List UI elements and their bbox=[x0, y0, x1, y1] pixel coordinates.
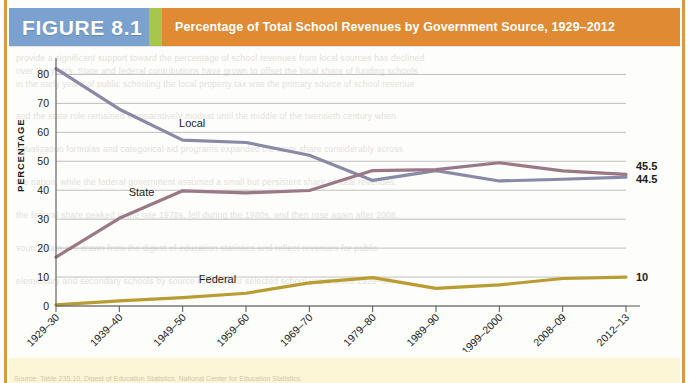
x-tick-labels-group: 1929–301939–401949–501959–601969–701979–… bbox=[24, 311, 632, 352]
y-tick-label: 30 bbox=[37, 213, 49, 225]
y-tick-label: 10 bbox=[37, 271, 49, 283]
series-line-federal bbox=[56, 277, 626, 305]
y-tick-label: 60 bbox=[37, 126, 49, 138]
page-rule-right bbox=[682, 0, 685, 383]
y-tick-label: 20 bbox=[37, 242, 49, 254]
y-tick-labels-group: 01020304050607080 bbox=[37, 68, 49, 312]
series-line-state bbox=[56, 163, 626, 257]
figure-number-badge: FIGURE 8.1 bbox=[9, 8, 149, 46]
chart-container: PERCENTAGE SCHOOL YEAR 01020304050607080… bbox=[9, 52, 680, 352]
x-tick-label: 1929–30 bbox=[24, 311, 62, 349]
x-tick-label: 1939–40 bbox=[87, 311, 125, 349]
figure-title: Percentage of Total School Revenues by G… bbox=[162, 8, 680, 46]
line-chart-plot: 01020304050607080 1929–301939–401949–501… bbox=[9, 52, 680, 352]
end-label-local: 44.5 bbox=[636, 173, 657, 185]
series-end-labels-group: 44.545.510 bbox=[636, 160, 657, 283]
end-label-state: 45.5 bbox=[636, 160, 657, 172]
y-tick-label: 80 bbox=[37, 68, 49, 80]
y-tick-label: 0 bbox=[43, 300, 49, 312]
x-tick-label: 2008–09 bbox=[531, 311, 569, 349]
x-tick-label: 1979–80 bbox=[341, 311, 379, 349]
series-label-federal: Federal bbox=[199, 273, 236, 285]
y-tick-label: 40 bbox=[37, 184, 49, 196]
series-label-local: Local bbox=[179, 117, 205, 129]
banner-divider bbox=[149, 8, 162, 46]
series-line-local bbox=[56, 69, 626, 181]
figure-number-label: FIGURE 8.1 bbox=[22, 17, 142, 38]
y-tick-label: 70 bbox=[37, 97, 49, 109]
page-rule-left bbox=[4, 0, 7, 383]
x-tick-marks-group bbox=[56, 306, 626, 312]
x-tick-label: 1969–70 bbox=[277, 311, 315, 349]
x-tick-label: 1999–2000 bbox=[459, 311, 505, 352]
series-label-state: State bbox=[129, 186, 155, 198]
x-tick-label: 1989–90 bbox=[404, 311, 442, 349]
end-label-federal: 10 bbox=[636, 271, 648, 283]
y-tick-label: 50 bbox=[37, 155, 49, 167]
x-tick-label: 2012–13 bbox=[594, 311, 632, 349]
source-note: Source: Table 235.10, Digest of Educatio… bbox=[14, 375, 675, 382]
y-axis-title: PERCENTAGE bbox=[15, 119, 26, 192]
figure-banner: FIGURE 8.1 Percentage of Total School Re… bbox=[9, 8, 680, 46]
x-tick-label: 1959–60 bbox=[214, 311, 252, 349]
x-tick-label: 1949–50 bbox=[151, 311, 189, 349]
figure-root: provide a significant support toward the… bbox=[0, 0, 689, 383]
